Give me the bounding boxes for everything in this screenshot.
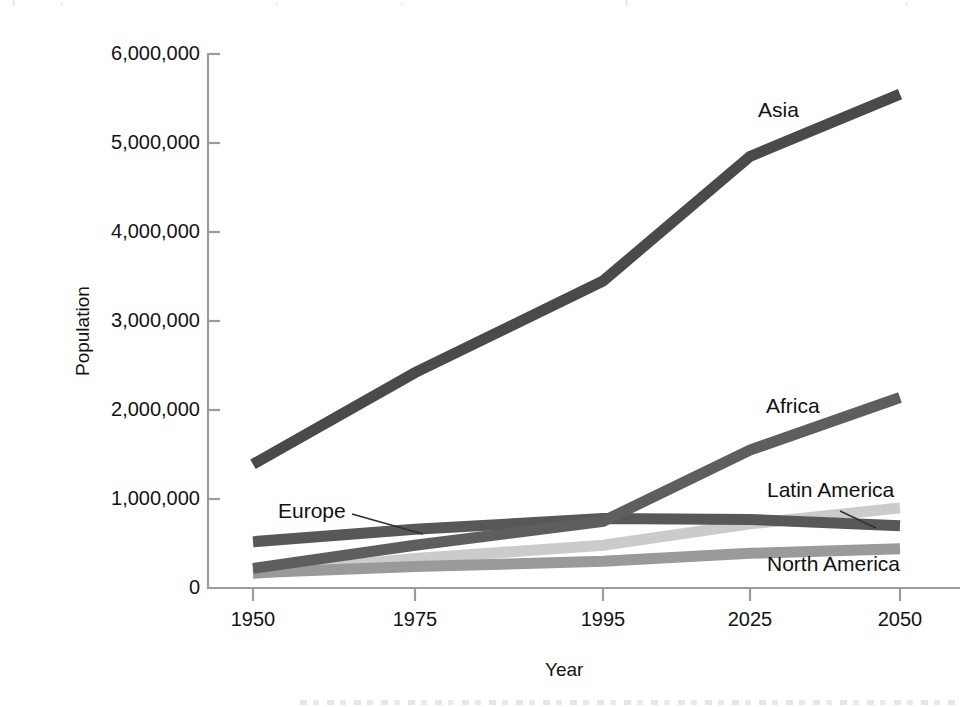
y-tick-marks [208,54,220,499]
y-tick-label-2000000: 2,000,000 [48,398,200,421]
y-tick-label-4000000: 4,000,000 [48,220,200,243]
population-line-chart: 6,000,000 5,000,000 4,000,000 3,000,000 … [40,16,960,707]
x-tick-label-2025: 2025 [690,608,810,631]
y-tick-label-5000000: 5,000,000 [48,131,200,154]
series-label-north-america: North America [767,552,900,576]
y-axis-title: Population [72,286,94,376]
x-tick-label-1975: 1975 [355,608,475,631]
artifact-mark-3: , [275,0,280,6]
scan-artifact-top: | , , , | , [0,0,960,8]
scan-artifact-bottom [300,700,960,705]
x-tick-label-2050: 2050 [840,608,960,631]
artifact-mark-1: | [12,0,17,6]
artifact-mark-4: , [400,0,405,6]
chart-plot-area [40,16,960,707]
series-label-europe: Europe [278,499,346,523]
artifact-mark-2: , [60,0,65,6]
x-tick-label-1950: 1950 [193,608,313,631]
artifact-mark-6: , [905,0,910,6]
x-tick-label-1995: 1995 [543,608,663,631]
y-tick-label-0: 0 [48,576,200,599]
y-tick-label-3000000: 3,000,000 [48,309,200,332]
series-label-asia: Asia [758,98,799,122]
series-label-africa: Africa [766,394,820,418]
series-label-latin-america: Latin America [767,478,894,502]
y-tick-label-1000000: 1,000,000 [48,487,200,510]
artifact-mark-5: | [625,0,630,6]
y-tick-label-6000000: 6,000,000 [48,42,200,65]
x-axis-title: Year [545,659,583,681]
x-tick-marks [253,588,900,601]
